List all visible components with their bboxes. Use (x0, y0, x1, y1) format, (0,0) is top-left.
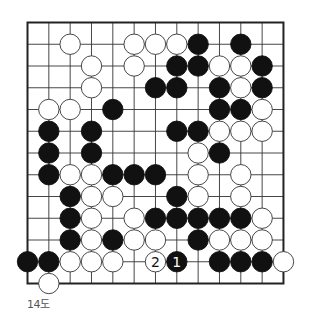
black-stone (188, 56, 208, 76)
black-stone (231, 99, 251, 119)
black-stone (60, 186, 80, 206)
white-stone (231, 186, 251, 206)
black-stone (103, 165, 123, 185)
white-stone (231, 165, 251, 185)
black-stone (103, 99, 123, 119)
white-stone (81, 56, 101, 76)
white-stone (231, 230, 251, 250)
black-stone (103, 230, 123, 250)
white-stone (103, 252, 123, 272)
white-stone (252, 99, 272, 119)
black-stone (124, 165, 144, 185)
black-stone (231, 252, 251, 272)
white-stone (124, 230, 144, 250)
white-stone: 2 (145, 252, 165, 272)
move-number-label: 2 (151, 254, 160, 270)
black-stone (81, 143, 101, 163)
black-stone (231, 34, 251, 54)
white-stone (231, 121, 251, 141)
black-stone (188, 230, 208, 250)
white-stone (39, 99, 59, 119)
white-stone (231, 56, 251, 76)
black-stone (167, 56, 187, 76)
black-stone (145, 208, 165, 228)
diagram-caption: 14도 (27, 295, 50, 311)
black-stone (167, 186, 187, 206)
white-stone (103, 186, 123, 206)
white-stone (81, 186, 101, 206)
white-stone (209, 230, 229, 250)
white-stone (209, 121, 229, 141)
white-stone (167, 34, 187, 54)
black-stone (39, 143, 59, 163)
go-board: 21 (0, 0, 312, 316)
white-stone (60, 252, 80, 272)
black-stone (145, 165, 165, 185)
move-number-label: 1 (172, 254, 181, 270)
black-stone (209, 78, 229, 98)
white-stone (188, 186, 208, 206)
black-stone (209, 99, 229, 119)
black-stone (231, 208, 251, 228)
white-stone (81, 252, 101, 272)
black-stone (39, 252, 59, 272)
black-stone (209, 208, 229, 228)
white-stone (231, 78, 251, 98)
black-stone (188, 121, 208, 141)
white-stone (209, 56, 229, 76)
black-stone (209, 252, 229, 272)
black-stone (145, 78, 165, 98)
black-stone (167, 208, 187, 228)
white-stone (60, 34, 80, 54)
white-stone (188, 143, 208, 163)
black-stone (167, 121, 187, 141)
white-stone (252, 121, 272, 141)
white-stone (252, 230, 272, 250)
white-stone (81, 78, 101, 98)
white-stone (81, 208, 101, 228)
black-stone (209, 143, 229, 163)
white-stone (39, 273, 59, 293)
black-stone (252, 56, 272, 76)
black-stone (188, 208, 208, 228)
black-stone (252, 252, 272, 272)
black-stone (167, 78, 187, 98)
black-stone (188, 34, 208, 54)
black-stone (252, 78, 272, 98)
white-stone (252, 208, 272, 228)
white-stone (81, 230, 101, 250)
white-stone (124, 34, 144, 54)
white-stone (145, 230, 165, 250)
white-stone (145, 34, 165, 54)
white-stone (60, 165, 80, 185)
white-stone (60, 99, 80, 119)
white-stone (273, 252, 293, 272)
black-stone (39, 121, 59, 141)
white-stone (124, 56, 144, 76)
black-stone (39, 165, 59, 185)
white-stone (188, 165, 208, 185)
black-stone: 1 (167, 252, 187, 272)
black-stone (60, 208, 80, 228)
black-stone (60, 230, 80, 250)
black-stone (17, 252, 37, 272)
white-stone (81, 165, 101, 185)
black-stone (81, 121, 101, 141)
white-stone (124, 208, 144, 228)
